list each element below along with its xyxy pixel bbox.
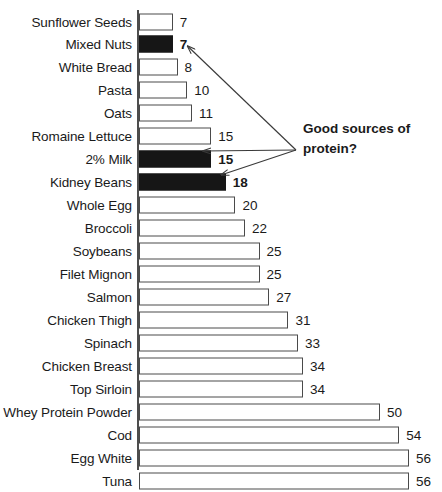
category-label: Soybeans [73, 244, 132, 259]
category-label: Filet Mignon [60, 266, 132, 281]
bar-row: Egg White56 [0, 446, 442, 469]
category-label: Salmon [87, 289, 132, 304]
value-label: 34 [310, 381, 325, 396]
bar-row: Mixed Nuts7 [0, 33, 442, 56]
category-label: Egg White [71, 450, 132, 465]
bar-highlighted [139, 174, 226, 191]
bar [139, 334, 298, 351]
bar-row: Filet Mignon25 [0, 262, 442, 285]
bar [139, 265, 260, 282]
category-label: Mixed Nuts [65, 37, 132, 52]
value-label: 56 [416, 450, 431, 465]
bar-row: Spinach33 [0, 331, 442, 354]
bar [139, 472, 409, 489]
category-label: Pasta [98, 83, 132, 98]
category-label: Kidney Beans [50, 175, 132, 190]
bar-row: Pasta10 [0, 79, 442, 102]
bar [139, 380, 303, 397]
bar [139, 311, 288, 328]
bar-row: Broccoli22 [0, 217, 442, 240]
value-label: 56 [416, 473, 431, 488]
value-label: 54 [406, 427, 421, 442]
bar-row: Whole Egg20 [0, 194, 442, 217]
category-label: Tuna [102, 473, 132, 488]
annotation-line-1: Good sources of [303, 119, 439, 139]
bar-row: Chicken Breast34 [0, 354, 442, 377]
bar [139, 59, 178, 76]
category-label: Chicken Thigh [47, 312, 132, 327]
bar [139, 357, 303, 374]
value-label: 7 [180, 14, 188, 29]
value-label: 25 [267, 266, 282, 281]
bar-row: Top Sirloin34 [0, 377, 442, 400]
value-label: 15 [218, 152, 233, 167]
bar-row: Soybeans25 [0, 240, 442, 263]
value-label: 27 [276, 289, 291, 304]
category-label: Whey Protein Powder [3, 404, 132, 419]
bar [139, 13, 173, 30]
annotation-label: Good sources of protein? [303, 119, 439, 159]
bar-highlighted [139, 151, 211, 168]
value-label: 18 [233, 175, 248, 190]
category-label: Oats [104, 106, 132, 121]
bar-row: Tuna56 [0, 469, 442, 492]
value-label: 22 [252, 221, 267, 236]
category-label: Sunflower Seeds [31, 14, 132, 29]
bar-row: White Bread8 [0, 56, 442, 79]
value-label: 50 [387, 404, 402, 419]
value-label: 11 [199, 106, 213, 121]
bar [139, 82, 187, 99]
bar [139, 403, 380, 420]
bar [139, 426, 399, 443]
value-label: 33 [305, 335, 320, 350]
value-label: 7 [180, 37, 188, 52]
category-label: Whole Egg [67, 198, 132, 213]
value-label: 20 [242, 198, 257, 213]
value-label: 25 [267, 244, 282, 259]
value-label: 34 [310, 358, 325, 373]
bar [139, 288, 269, 305]
bar [139, 220, 245, 237]
bar [139, 128, 211, 145]
bar-row: Whey Protein Powder50 [0, 400, 442, 423]
value-label: 10 [194, 83, 209, 98]
bar-row: Chicken Thigh31 [0, 308, 442, 331]
bar [139, 243, 260, 260]
bar [139, 197, 235, 214]
bar-row: Salmon27 [0, 285, 442, 308]
category-label: Chicken Breast [42, 358, 132, 373]
value-label: 15 [218, 129, 233, 144]
category-label: Broccoli [85, 221, 132, 236]
category-label: Romaine Lettuce [31, 129, 132, 144]
bar-highlighted [139, 36, 173, 53]
value-label: 31 [295, 312, 310, 327]
bar [139, 449, 409, 466]
bar [139, 105, 192, 122]
category-label: Cod [108, 427, 132, 442]
category-label: 2% Milk [85, 152, 132, 167]
bar-row: Kidney Beans18 [0, 171, 442, 194]
bar-row: Cod54 [0, 423, 442, 446]
bar-row: Sunflower Seeds7 [0, 10, 442, 33]
category-label: Top Sirloin [70, 381, 132, 396]
value-label: 8 [185, 60, 193, 75]
category-label: White Bread [59, 60, 132, 75]
annotation-line-2: protein? [303, 139, 439, 159]
category-label: Spinach [84, 335, 132, 350]
